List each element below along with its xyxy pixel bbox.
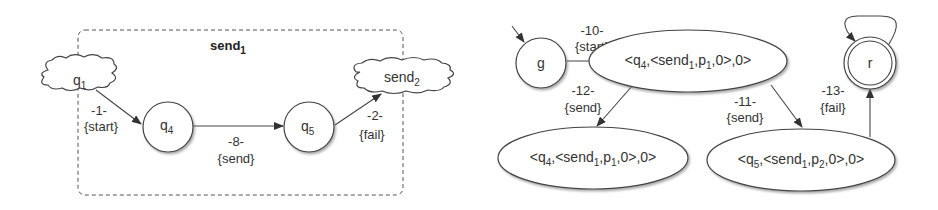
edge-top-bl: [597, 85, 633, 126]
edge-label-num: -10-: [580, 23, 603, 38]
node-r[interactable]: r: [844, 37, 896, 89]
node-top-ellipse[interactable]: <q4,<send1,p1,0>,0>: [589, 30, 787, 92]
right-diagram: -10- {start} -12- {send} -11- {send} -13…: [498, 16, 896, 191]
node-bottom-left-ellipse[interactable]: <q4,<send1,p1,0>,0>: [498, 127, 688, 189]
edge-label-num: -1-: [91, 103, 107, 118]
edge-label-num: -2-: [367, 108, 383, 123]
edge-label-action: {send}: [218, 151, 256, 166]
edge-label-action: {fail}: [359, 127, 385, 142]
edge-label-action: {send}: [565, 100, 603, 115]
left-diagram: send1 -1- {start} -8- {send} -2- {fail} …: [42, 30, 454, 195]
edge-label-action: {send}: [727, 110, 765, 125]
diagram-canvas: send1 -1- {start} -8- {send} -2- {fail} …: [0, 0, 938, 210]
svg-text:g: g: [537, 55, 545, 71]
edge-label-action: {start}: [84, 119, 119, 134]
node-q4[interactable]: q4: [143, 102, 193, 152]
container-title: send1: [210, 38, 246, 56]
edge-label-num: -12-: [571, 83, 594, 98]
svg-text:r: r: [868, 55, 873, 71]
node-q1[interactable]: q1: [42, 55, 117, 91]
node-bottom-right-ellipse[interactable]: <q5,<send1,p2,0>,0>: [707, 129, 895, 191]
initial-arrow: [512, 26, 524, 42]
edge-label-num: -11-: [734, 94, 756, 109]
edge-label-action: {fail}: [820, 100, 846, 115]
edge-label-num: -13-: [821, 83, 844, 98]
edge-label-num: -8-: [228, 134, 244, 149]
edge-top-br: [771, 85, 802, 127]
node-g[interactable]: g: [516, 38, 566, 88]
node-send2[interactable]: send2: [354, 58, 454, 94]
node-q5[interactable]: q5: [284, 102, 334, 152]
